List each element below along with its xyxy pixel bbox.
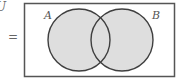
set-a-label: A <box>43 9 52 22</box>
venn-diagram: A B <box>0 0 179 79</box>
set-b-label: B <box>151 9 160 22</box>
